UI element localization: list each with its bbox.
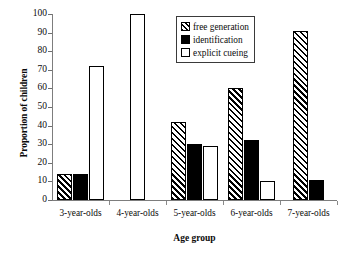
bar-free-generation[interactable] [171, 122, 186, 200]
legend-swatch-icon [181, 35, 190, 44]
x-tick-label: 4-year-olds [109, 207, 166, 219]
legend-swatch-icon [181, 22, 190, 31]
x-tick-mark [280, 201, 281, 205]
x-axis-tick-labels: 3-year-olds4-year-olds5-year-olds6-year-… [52, 207, 337, 223]
bar-chart-figure: Proportion of children 01020304050607080… [0, 0, 353, 261]
legend-item-label: identification [193, 35, 243, 45]
y-tick-mark [48, 51, 52, 52]
y-tick-label: 60 [21, 84, 47, 94]
chart-legend: free generationidentificationexplicit cu… [176, 16, 255, 63]
x-tick-mark [109, 201, 110, 205]
legend-item[interactable]: free generation [181, 20, 249, 33]
y-tick-label: 10 [21, 177, 47, 187]
y-tick-label: 40 [21, 121, 47, 131]
bar-explicit-cueing[interactable] [130, 14, 145, 200]
bar-explicit-cueing[interactable] [89, 66, 104, 200]
bar-identification[interactable] [187, 144, 202, 200]
legend-item-label: explicit cueing [193, 48, 248, 58]
legend-swatch-icon [181, 48, 190, 57]
y-tick-mark [48, 144, 52, 145]
y-tick-mark [48, 181, 52, 182]
bar-identification[interactable] [244, 140, 259, 200]
bar-free-generation[interactable] [293, 31, 308, 200]
y-tick-mark [48, 88, 52, 89]
y-tick-mark [48, 70, 52, 71]
bar-free-generation[interactable] [228, 88, 243, 200]
bar-group [280, 14, 337, 200]
legend-item-label: free generation [193, 22, 249, 32]
y-tick-mark [48, 200, 52, 201]
y-tick-mark [48, 126, 52, 127]
y-tick-mark [48, 163, 52, 164]
y-tick-label: 20 [21, 158, 47, 168]
bar-group [52, 14, 109, 200]
y-tick-label: 80 [21, 46, 47, 56]
x-axis-line [52, 200, 337, 201]
y-tick-mark [48, 14, 52, 15]
bar-group [109, 14, 166, 200]
y-tick-label: 0 [21, 195, 47, 205]
x-tick-mark [337, 201, 338, 205]
y-tick-label: 70 [21, 65, 47, 75]
bar-explicit-cueing[interactable] [203, 146, 218, 200]
bar-identification[interactable] [309, 180, 324, 200]
x-axis-title: Age group [52, 233, 337, 243]
y-tick-label: 90 [21, 28, 47, 38]
y-tick-label: 30 [21, 139, 47, 149]
bar-explicit-cueing[interactable] [260, 181, 275, 200]
bar-free-generation[interactable] [57, 174, 72, 200]
x-tick-label: 6-year-olds [223, 207, 280, 219]
legend-item[interactable]: identification [181, 33, 249, 46]
x-tick-label: 3-year-olds [52, 207, 109, 219]
x-tick-label: 7-year-olds [280, 207, 337, 219]
x-tick-label: 5-year-olds [166, 207, 223, 219]
y-axis-tick-labels: 0102030405060708090100 [21, 14, 47, 200]
y-tick-mark [48, 33, 52, 34]
x-tick-mark [223, 201, 224, 205]
legend-item[interactable]: explicit cueing [181, 46, 249, 59]
y-tick-label: 50 [21, 102, 47, 112]
x-tick-mark [166, 201, 167, 205]
y-tick-label: 100 [21, 9, 47, 19]
y-tick-mark [48, 107, 52, 108]
bar-identification[interactable] [73, 174, 88, 200]
